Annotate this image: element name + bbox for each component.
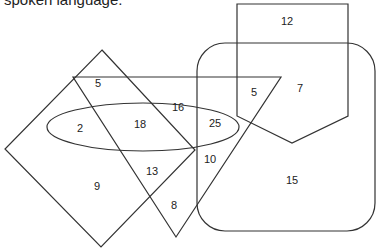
region-label: 5 — [95, 77, 101, 89]
region-label: 13 — [146, 165, 158, 177]
region-label: 18 — [134, 118, 146, 130]
region-label: 7 — [297, 82, 303, 94]
region-label: 9 — [94, 180, 100, 192]
region-label: 10 — [204, 153, 216, 165]
region-label: 5 — [251, 86, 257, 98]
region-label: 12 — [281, 15, 293, 27]
region-label: 15 — [286, 174, 298, 186]
region-label: 8 — [171, 199, 177, 211]
region-label: 16 — [172, 101, 184, 113]
venn-diagram: 5 2 18 16 25 5 7 12 10 15 13 9 8 — [0, 0, 378, 249]
region-label: 25 — [209, 117, 221, 129]
region-label: 2 — [77, 122, 83, 134]
